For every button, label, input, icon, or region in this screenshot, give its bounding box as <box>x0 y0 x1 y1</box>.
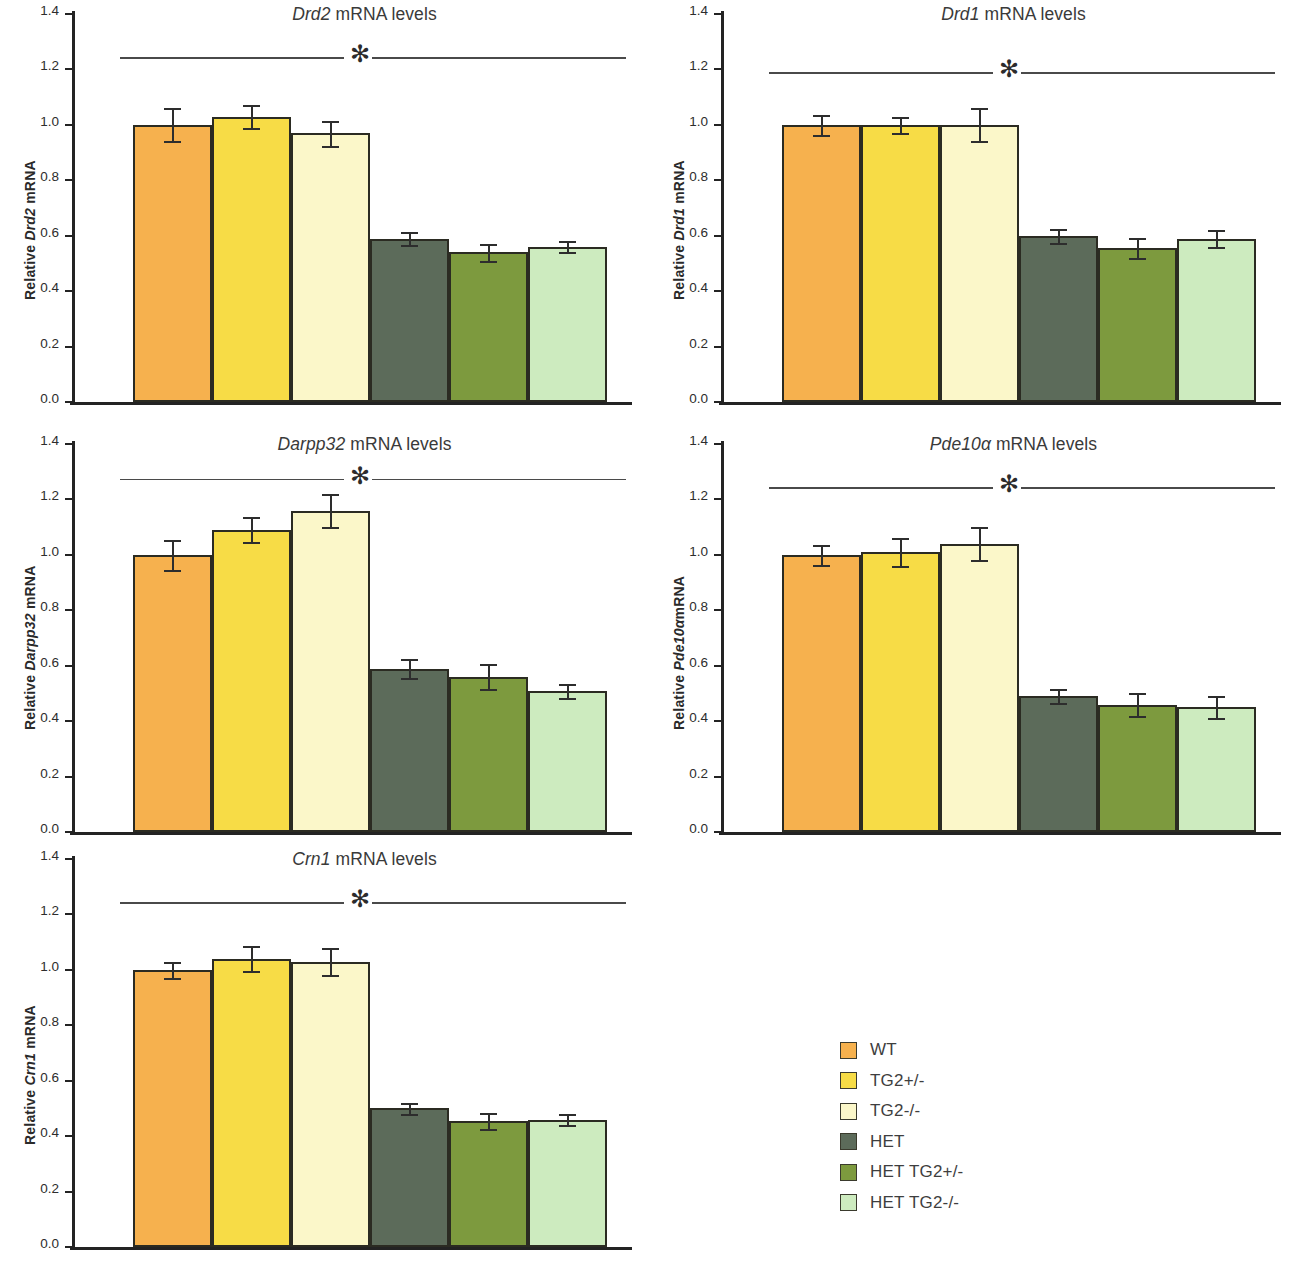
bar-drd2-HETTG2 <box>528 247 607 402</box>
y-axis-tick-label: 0.6 <box>40 1071 59 1085</box>
y-axis-tick-label: 0.0 <box>689 822 708 836</box>
y-axis-tick: 1.0 <box>65 554 72 556</box>
y-axis-tick-label: 0.4 <box>689 711 708 725</box>
error-bar-cap-lower <box>971 560 988 562</box>
y-axis-tick-label: 0.2 <box>40 337 59 351</box>
y-axis-tick-label: 0.0 <box>40 1237 59 1251</box>
error-bar-cap-lower <box>164 570 181 572</box>
y-axis-title-gene: Darpp32 <box>22 613 38 670</box>
error-bar-cap-upper <box>892 538 909 540</box>
y-axis-tick: 1.0 <box>65 969 72 971</box>
significance-line-left <box>769 72 993 74</box>
y-axis-title-prefix: Relative <box>671 671 687 730</box>
error-bar-cap-upper <box>164 962 181 964</box>
y-axis-tick-label: 0.8 <box>689 170 708 184</box>
error-bar-cap-upper <box>322 121 339 123</box>
significance-line-right <box>1021 72 1275 74</box>
plot-area-drd2: 0.00.20.40.60.81.01.21.4✻ <box>72 14 632 402</box>
y-axis-title-prefix: Relative <box>671 241 687 300</box>
plot-area-pde10a: 0.00.20.40.60.81.01.21.4✻ <box>721 444 1281 832</box>
y-axis-tick-label: 0.6 <box>40 226 59 240</box>
bar-crn1-WT <box>133 970 212 1247</box>
significance-line-right <box>372 479 626 481</box>
error-bar-cap-upper <box>1208 230 1225 232</box>
y-axis-tick-label: 1.2 <box>40 59 59 73</box>
error-bar-cap-upper <box>813 115 830 117</box>
y-axis-tick: 0.2 <box>65 776 72 778</box>
error-bar <box>979 527 981 560</box>
error-bar-cap-upper <box>971 108 988 110</box>
y-axis-tick: 0.6 <box>714 665 721 667</box>
error-bar <box>1058 689 1060 703</box>
y-axis-tick: 1.0 <box>714 124 721 126</box>
y-axis-tick: 0.8 <box>714 609 721 611</box>
y-axis-title-drd1: Relative Drd1 mRNA <box>671 160 687 300</box>
error-bar-cap-lower <box>322 527 339 529</box>
y-axis-title-prefix: Relative <box>22 671 38 730</box>
y-axis-tick-label: 0.8 <box>689 600 708 614</box>
error-bar <box>567 684 569 698</box>
y-axis-tick: 0.4 <box>65 1135 72 1137</box>
error-bar-cap-upper <box>1129 693 1146 695</box>
significance-asterisk: ✻ <box>350 887 370 911</box>
y-axis-tick: 0.2 <box>65 346 72 348</box>
error-bar <box>979 108 981 141</box>
error-bar-cap-upper <box>813 545 830 547</box>
bar-drd2-TG2 <box>212 117 291 402</box>
bar-drd2-HET <box>370 239 449 403</box>
bar-group-crn1 <box>72 859 632 1247</box>
y-axis-tick-label: 0.4 <box>40 281 59 295</box>
legend-swatch-icon <box>840 1133 857 1150</box>
bar-drd1-WT <box>782 125 861 402</box>
legend-item-label: HET <box>870 1132 905 1152</box>
plot-area-drd1: 0.00.20.40.60.81.01.21.4✻ <box>721 14 1281 402</box>
error-bar <box>1216 696 1218 718</box>
y-axis-title-pde10a: Relative Pde10αmRNA <box>671 576 687 730</box>
error-bar-cap-lower <box>559 698 576 700</box>
y-axis-tick-label: 1.4 <box>40 849 59 863</box>
y-axis-tick: 0.0 <box>714 831 721 833</box>
error-bar-cap-lower <box>164 978 181 980</box>
bar-crn1-HET <box>370 1108 449 1247</box>
error-bar-cap-lower <box>559 1125 576 1127</box>
bar-drd1-TG2 <box>940 125 1019 402</box>
y-axis-tick-label: 1.2 <box>689 59 708 73</box>
legend-item: HET <box>840 1127 1140 1158</box>
error-bar-cap-upper <box>322 948 339 950</box>
y-axis-tick-label: 1.4 <box>40 434 59 448</box>
error-bar-cap-upper <box>164 540 181 542</box>
y-axis-tick: 1.4 <box>714 443 721 445</box>
error-bar-cap-upper <box>243 517 260 519</box>
legend-swatch-icon <box>840 1072 857 1089</box>
y-axis-tick-label: 1.4 <box>689 434 708 448</box>
significance-asterisk: ✻ <box>999 472 1019 496</box>
x-axis-line <box>719 832 1281 835</box>
error-bar <box>251 517 253 542</box>
legend-item: HET TG2-/- <box>840 1188 1140 1219</box>
y-axis-tick: 0.8 <box>65 1024 72 1026</box>
y-axis-tick-label: 1.4 <box>40 4 59 18</box>
y-axis-title-gene: Pde10α <box>671 619 687 670</box>
error-bar <box>821 545 823 564</box>
y-axis-tick-label: 0.0 <box>40 392 59 406</box>
y-axis-title-drd2: Relative Drd2 mRNA <box>22 160 38 300</box>
bar-drd1-HETTG2 <box>1177 239 1256 403</box>
y-axis-tick: 1.2 <box>714 498 721 500</box>
y-axis-title-suffix: mRNA <box>22 566 38 614</box>
y-axis-tick-label: 1.0 <box>689 115 708 129</box>
bar-darpp32-TG2 <box>212 530 291 832</box>
y-axis-title-suffix: mRNA <box>671 160 687 208</box>
y-axis-tick: 1.2 <box>65 498 72 500</box>
error-bar-cap-upper <box>892 117 909 119</box>
bar-group-drd2 <box>72 14 632 402</box>
bar-drd1-HET <box>1019 236 1098 402</box>
y-axis-tick-label: 1.2 <box>40 904 59 918</box>
error-bar <box>488 244 490 261</box>
legend-item-label: TG2+/- <box>870 1071 925 1091</box>
legend-item-label: WT <box>870 1040 897 1060</box>
y-axis-tick-label: 0.2 <box>689 337 708 351</box>
error-bar-cap-lower <box>892 133 909 135</box>
y-axis-title-gene: Drd2 <box>22 208 38 241</box>
figure-legend: WTTG2+/-TG2-/-HETHET TG2+/-HET TG2-/- <box>840 1035 1140 1218</box>
bar-crn1-HETTG2 <box>449 1121 528 1247</box>
